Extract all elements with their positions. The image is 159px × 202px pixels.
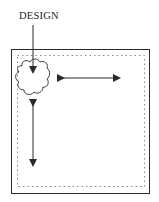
outer-frame	[12, 50, 150, 194]
dotted-inner-border	[18, 56, 145, 187]
diagram-canvas	[0, 0, 159, 202]
